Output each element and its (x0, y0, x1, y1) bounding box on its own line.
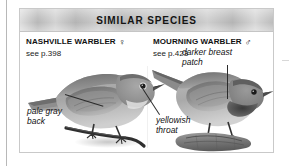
column-divider (147, 66, 148, 148)
callout-pale-gray-back: pale gray back (27, 107, 67, 126)
darker-breast-patch-shape (227, 101, 258, 117)
leader-line-darker-breast-patch (227, 65, 228, 99)
species-name-mourning: MOURNING WARBLER ♂ (153, 37, 252, 47)
leader-line-yellowish-throat (140, 84, 160, 115)
female-symbol: ♀ (119, 38, 126, 47)
species-name-text: NASHVILLE WARBLER (26, 37, 116, 47)
species-label-nashville: NASHVILLE WARBLER ♀ see p.398 (26, 37, 126, 59)
leader-line-pale-gray-back (65, 94, 104, 107)
species-name-nashville: NASHVILLE WARBLER ♀ (26, 37, 126, 47)
page-margin-rule (6, 0, 7, 166)
panel-body: NASHVILLE WARBLER ♀ see p.398 MOURNING W… (20, 32, 273, 153)
male-symbol: ♂ (245, 38, 252, 47)
page-reference-nashville[interactable]: see p.398 (26, 48, 126, 59)
margin-tick-mark (282, 60, 289, 61)
callout-yellowish-throat: yellowish throat (156, 116, 204, 135)
callout-darker-breast-patch: darker breast patch (182, 48, 254, 67)
panel-header: SIMILAR SPECIES (20, 9, 273, 32)
similar-species-panel: SIMILAR SPECIES (19, 8, 274, 153)
nashville-warbler-illustration (22, 56, 167, 153)
panel-header-title: SIMILAR SPECIES (96, 15, 197, 26)
species-name-text: MOURNING WARBLER (153, 37, 242, 47)
